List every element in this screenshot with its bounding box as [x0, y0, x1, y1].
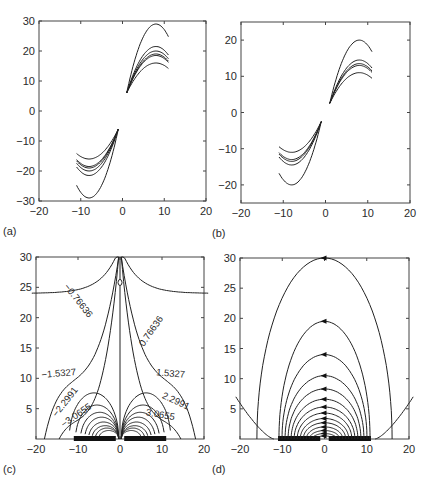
y-tick-label: 0 [29, 105, 35, 117]
arc-curve [279, 122, 321, 162]
panel-b: −20−1001020−20−1001020(b) [212, 22, 416, 239]
x-tick-label: −20 [27, 443, 46, 455]
y-tick-label: 30 [20, 251, 32, 263]
x-tick-label: −10 [273, 443, 292, 455]
arrow-icon [321, 386, 327, 391]
x-tick-label: 20 [403, 443, 415, 455]
electrode [74, 436, 116, 441]
x-tick-label: −20 [232, 207, 251, 219]
contour-line [121, 257, 208, 293]
y-tick-label: −10 [16, 135, 35, 147]
arc-curve [77, 129, 119, 168]
arrow-icon [321, 416, 327, 421]
zero-label-marker [118, 279, 122, 285]
x-tick-label: −10 [71, 205, 90, 217]
y-tick-label: 20 [225, 34, 237, 46]
y-tick-label: 10 [23, 75, 35, 87]
arc-curve [330, 40, 372, 103]
x-tick-label: 0 [119, 205, 125, 217]
y-tick-label: 15 [224, 343, 236, 355]
y-tick-label: −20 [218, 179, 237, 191]
figure: −20−1001020−30−20−100102030(a) −20−10010… [0, 0, 427, 485]
y-tick-label: 15 [20, 342, 32, 354]
y-tick-label: −10 [218, 143, 237, 155]
arrow-icon [321, 411, 327, 416]
panel-label: (b) [212, 227, 225, 239]
electrode [124, 436, 166, 441]
arc-curve [279, 122, 321, 160]
y-tick-label: 25 [224, 282, 236, 294]
x-tick-label: 10 [158, 205, 170, 217]
y-tick-label: −20 [16, 165, 35, 177]
arc-curve [330, 65, 372, 103]
x-tick-label: 0 [322, 207, 328, 219]
y-tick-label: 20 [23, 45, 35, 57]
panel-label: (d) [212, 463, 225, 475]
arrow-icon [321, 256, 327, 261]
x-tick-label: 20 [198, 443, 210, 455]
arrow-icon [321, 397, 327, 402]
contour-label: 3.0655 [145, 406, 176, 422]
arrow-icon [321, 352, 327, 357]
contour-label: −1.5327 [41, 366, 76, 380]
x-tick-label: 10 [362, 207, 374, 219]
field-line [236, 397, 274, 439]
y-tick-label: 30 [224, 252, 236, 264]
x-tick-label: 20 [404, 207, 416, 219]
y-tick-label: 10 [225, 70, 237, 82]
contour-label: 2.2991 [161, 390, 192, 412]
field-line [375, 397, 413, 439]
x-tick-label: 0 [321, 443, 327, 455]
y-tick-label: 20 [224, 312, 236, 324]
arc-curve [127, 47, 169, 94]
panel-label: (a) [3, 225, 16, 237]
x-tick-label: 20 [200, 205, 212, 217]
y-tick-label: 30 [23, 15, 35, 27]
plot-frame [39, 21, 206, 201]
arc-curve [279, 122, 321, 185]
arc-curve [77, 129, 119, 176]
panel-a: −20−1001020−30−20−100102030(a) [3, 15, 212, 237]
arrow-icon [321, 319, 327, 324]
y-tick-label: 0 [231, 107, 237, 119]
arc-curve [330, 64, 372, 104]
arrow-icon [321, 405, 327, 410]
y-tick-label: 5 [26, 403, 32, 415]
panel-label: (c) [3, 463, 16, 475]
contour-label: −0.76636 [62, 281, 95, 319]
x-tick-label: 10 [361, 443, 373, 455]
contour-label: 1.5327 [156, 366, 186, 379]
y-tick-label: 10 [20, 372, 32, 384]
y-tick-label: 25 [20, 281, 32, 293]
x-tick-label: −10 [69, 443, 88, 455]
contour-label: 0.76636 [136, 314, 165, 348]
y-tick-label: 10 [224, 373, 236, 385]
x-tick-label: 0 [117, 443, 123, 455]
y-tick-label: 20 [20, 312, 32, 324]
arrow-icon [321, 420, 327, 425]
plot-frame [241, 22, 410, 203]
x-tick-label: 10 [156, 443, 168, 455]
y-tick-label: −30 [16, 195, 35, 207]
arc-curve [127, 54, 169, 93]
x-tick-label: −20 [231, 443, 250, 455]
arrow-icon [321, 373, 327, 378]
panel-d: −20−100102051015202530(d) [212, 252, 415, 475]
x-tick-label: −10 [274, 207, 293, 219]
y-tick-label: 5 [230, 403, 236, 415]
panel-c: −20−100102051015202530(c)−0.76636−1.5327… [3, 251, 210, 475]
